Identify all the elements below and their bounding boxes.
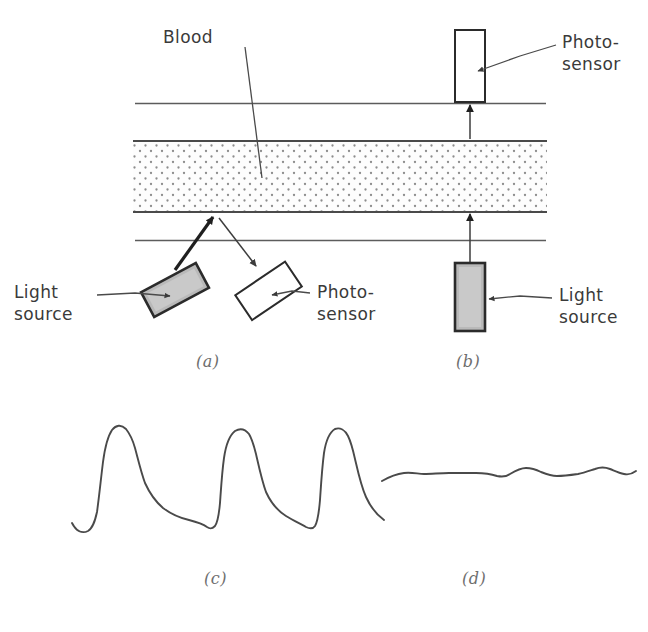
light-source-b-label: Light source [559, 284, 618, 329]
panel-label-c: (c) [204, 569, 227, 588]
panel-label-b: (b) [456, 352, 480, 371]
photosensor-a-label: Photo- sensor [317, 281, 376, 326]
waveform-d [382, 468, 636, 482]
figure-container: Blood Light source Photo- sensor Photo- … [0, 0, 648, 632]
waveform-d-trace [382, 468, 636, 482]
waveform-c [72, 426, 384, 532]
waveform-c-trace [72, 426, 384, 532]
photosensor-b-body [455, 30, 485, 102]
light-source-b[interactable] [455, 263, 485, 331]
light-source-a[interactable] [141, 263, 209, 317]
panel-a-optics [97, 217, 310, 320]
light-source-b-emitter [459, 267, 481, 327]
panel-label-a: (a) [196, 352, 220, 371]
panel-label-d: (d) [462, 569, 486, 588]
blood-label: Blood [163, 26, 213, 48]
photosensor-b-leader [478, 45, 556, 71]
reflected-ray-a [219, 218, 256, 266]
blood-band [133, 141, 547, 212]
photosensor-b-label: Photo- sensor [562, 31, 621, 76]
tissue-layers [133, 104, 547, 241]
incident-ray-a [175, 217, 213, 270]
light-source-a-label: Light source [14, 281, 73, 326]
light-source-b-leader [489, 296, 552, 299]
photosensor-b[interactable] [455, 30, 485, 102]
